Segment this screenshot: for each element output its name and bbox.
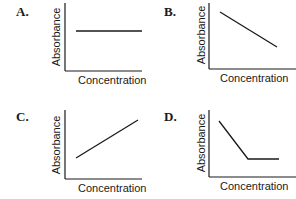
chart-panel-d: D. Absorbance Concentration <box>148 100 296 199</box>
y-axis-label: Absorbance <box>50 8 62 67</box>
chart-panel-c: C. Absorbance Concentration <box>0 100 148 199</box>
y-axis-label: Absorbance <box>50 116 62 175</box>
data-line <box>220 12 277 47</box>
data-line <box>76 120 138 158</box>
y-axis-label: Absorbance <box>195 6 207 65</box>
chart-panel-b: B. Absorbance Concentration <box>148 0 296 100</box>
x-axis-label: Concentration <box>220 180 289 192</box>
chart-panel-a: A. Absorbance Concentration <box>0 0 148 100</box>
plot-area <box>148 0 296 100</box>
x-axis-label: Concentration <box>220 72 289 84</box>
data-line <box>219 121 279 159</box>
y-axis-label: Absorbance <box>195 114 207 173</box>
x-axis-label: Concentration <box>78 182 147 194</box>
x-axis-label: Concentration <box>78 74 147 86</box>
